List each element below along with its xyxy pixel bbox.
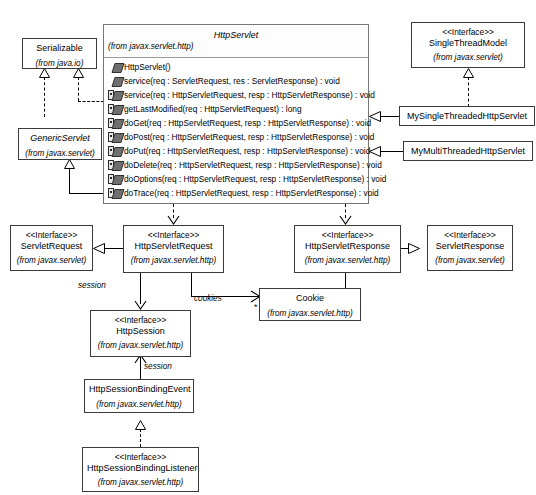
stereotype-http-session-binding-listener: <<Interface>> bbox=[87, 452, 194, 463]
class-box-servlet-response[interactable]: <<Interface>> ServletResponse (from java… bbox=[427, 225, 513, 271]
protected-method-icon bbox=[108, 117, 123, 129]
triangle-http-servlet-multi bbox=[369, 146, 381, 157]
class-box-http-session[interactable]: <<Interface>> HttpSession (from javax.se… bbox=[90, 310, 191, 357]
stereotype-single-thread-model: <<Interface>> bbox=[416, 27, 520, 38]
realization-listener-to-binding-event bbox=[140, 429, 141, 447]
method-row[interactable]: HttpServlet() bbox=[104, 60, 368, 74]
class-name-http-servlet: HttpServlet bbox=[104, 25, 368, 41]
class-package-http-servlet-response: (from javax.servlet.http) bbox=[299, 255, 396, 266]
class-name-my-multi-threaded-http-servlet: MyMultiThreadedHttpServlet bbox=[408, 146, 528, 158]
class-package-http-servlet-request: (from javax.servlet.http) bbox=[128, 255, 219, 266]
multiplicity-cookie-left: * bbox=[254, 303, 258, 312]
realization-http-servlet-to-serializable-horizontal bbox=[78, 101, 104, 102]
class-package-http-session-binding-event: (from javax.servlet.http) bbox=[89, 399, 189, 410]
class-box-http-session-binding-listener[interactable]: <<Interface>> HttpSessionBindingListener… bbox=[82, 447, 199, 492]
class-name-http-servlet-response: HttpServletResponse bbox=[299, 241, 396, 253]
class-box-http-session-binding-event[interactable]: HttpSessionBindingEvent (from javax.serv… bbox=[84, 379, 194, 413]
generalization-my-single-threaded-to-http-servlet bbox=[381, 116, 399, 117]
class-name-http-session-binding-listener: HttpSessionBindingListener bbox=[87, 463, 194, 475]
class-package-cookie: (from javax.servlet.http) bbox=[264, 308, 356, 319]
method-row[interactable]: service(req : HttpServletRequest, resp :… bbox=[104, 88, 368, 102]
public-method-icon bbox=[108, 75, 123, 87]
class-package-servlet-request: (from javax.servlet) bbox=[15, 255, 88, 266]
class-name-servlet-response: ServletResponse bbox=[432, 241, 508, 253]
stereotype-http-servlet-response: <<Interface>> bbox=[299, 230, 396, 241]
method-signature: doPut(req : HttpServletRequest, resp : H… bbox=[124, 144, 370, 158]
arrowhead-response-dependency bbox=[339, 215, 352, 225]
class-name-http-servlet-request: HttpServletRequest bbox=[128, 241, 219, 253]
method-signature: service(req : HttpServletRequest, resp :… bbox=[124, 88, 375, 102]
class-name-single-thread-model: SingleThreadModel bbox=[416, 38, 520, 50]
protected-method-icon bbox=[108, 145, 123, 157]
label-cookies-from-request: cookies bbox=[194, 294, 222, 304]
class-box-single-thread-model[interactable]: <<Interface>> SingleThreadModel (from ja… bbox=[411, 22, 525, 68]
class-name-serializable: Serializable bbox=[27, 43, 92, 55]
method-row[interactable]: doTrace(req : HttpServletRequest, resp :… bbox=[104, 186, 368, 200]
class-name-generic-servlet: GenericServlet bbox=[23, 133, 97, 145]
class-box-http-servlet-request[interactable]: <<Interface>> HttpServletRequest (from j… bbox=[123, 225, 224, 273]
class-box-http-servlet[interactable]: HttpServlet (from javax.servlet.http) Ht… bbox=[103, 24, 369, 204]
method-row[interactable]: doOptions(req : HttpServletRequest, resp… bbox=[104, 172, 368, 186]
method-row[interactable]: doPut(req : HttpServletRequest, resp : H… bbox=[104, 144, 368, 158]
method-row[interactable]: doGet(req : HttpServletRequest, resp : H… bbox=[104, 116, 368, 130]
arrowhead-request-dependency bbox=[167, 215, 180, 225]
association-request-to-cookie-vertical bbox=[191, 273, 192, 296]
method-signature: doDelete(req : HttpServletRequest, resp … bbox=[124, 158, 382, 172]
method-signature: getLastModified(req : HttpServletRequest… bbox=[124, 102, 302, 116]
uml-class-diagram-canvas: session cookies * cookies * session Seri… bbox=[0, 0, 536, 495]
protected-method-icon bbox=[108, 173, 123, 185]
protected-method-icon bbox=[108, 103, 123, 115]
triangle-servlet-response bbox=[408, 243, 420, 254]
class-package-http-session: (from javax.servlet.http) bbox=[95, 340, 186, 351]
http-servlet-header: HttpServlet (from javax.servlet.http) bbox=[104, 25, 368, 58]
triangle-servlet-request bbox=[93, 243, 105, 254]
class-package-single-thread-model: (from javax.servlet) bbox=[416, 52, 520, 63]
method-row[interactable]: getLastModified(req : HttpServletRequest… bbox=[104, 102, 368, 116]
stereotype-http-servlet-request: <<Interface>> bbox=[128, 230, 219, 241]
method-signature: doOptions(req : HttpServletRequest, resp… bbox=[124, 172, 386, 186]
realization-http-servlet-to-serializable-vertical bbox=[78, 77, 79, 101]
stereotype-http-session: <<Interface>> bbox=[95, 315, 186, 326]
class-name-http-session-binding-event: HttpSessionBindingEvent bbox=[89, 384, 189, 396]
triangle-single-thread-model bbox=[463, 68, 474, 78]
class-box-my-multi-threaded-http-servlet[interactable]: MyMultiThreadedHttpServlet bbox=[403, 141, 533, 161]
protected-method-icon bbox=[108, 89, 123, 101]
class-package-generic-servlet: (from javax.servlet) bbox=[23, 148, 97, 159]
realization-my-single-threaded-to-single-thread-model bbox=[468, 77, 469, 107]
generalization-request-to-servlet-request bbox=[105, 248, 123, 249]
method-signature: service(req : ServletRequest, res : Serv… bbox=[124, 74, 340, 88]
protected-method-icon bbox=[108, 159, 123, 171]
method-row[interactable]: doPost(req : HttpServletRequest, resp : … bbox=[104, 130, 368, 144]
class-box-generic-servlet[interactable]: GenericServlet (from javax.servlet) bbox=[18, 128, 102, 160]
class-package-http-servlet: (from javax.servlet.http) bbox=[104, 41, 368, 52]
class-package-servlet-response: (from javax.servlet) bbox=[432, 255, 508, 266]
class-package-serializable: (from java.io) bbox=[27, 58, 92, 69]
class-name-cookie: Cookie bbox=[264, 293, 356, 305]
method-signature: HttpServlet() bbox=[124, 60, 171, 74]
method-row[interactable]: service(req : ServletRequest, res : Serv… bbox=[104, 74, 368, 88]
method-signature: doPost(req : HttpServletRequest, resp : … bbox=[124, 130, 374, 144]
generalization-http-servlet-to-generic-servlet-vertical bbox=[69, 168, 70, 193]
class-name-my-single-threaded-http-servlet: MySingleThreadedHttpServlet bbox=[404, 111, 530, 123]
method-signature: doGet(req : HttpServletRequest, resp : H… bbox=[124, 116, 371, 130]
arrowhead-session-from-request bbox=[134, 300, 147, 310]
class-box-serializable[interactable]: Serializable (from java.io) bbox=[22, 38, 97, 69]
realization-generic-servlet-to-serializable bbox=[44, 77, 45, 117]
class-box-cookie[interactable]: Cookie (from javax.servlet.http) bbox=[259, 288, 361, 321]
protected-method-icon bbox=[108, 187, 123, 199]
class-box-my-single-threaded-http-servlet[interactable]: MySingleThreadedHttpServlet bbox=[399, 106, 535, 126]
class-box-http-servlet-response[interactable]: <<Interface>> HttpServletResponse (from … bbox=[294, 225, 401, 273]
generalization-http-servlet-to-generic-servlet-horizontal bbox=[69, 193, 104, 194]
triangle-binding-event bbox=[135, 420, 146, 430]
protected-method-icon bbox=[108, 131, 123, 143]
method-row[interactable]: doDelete(req : HttpServletRequest, resp … bbox=[104, 158, 368, 172]
generalization-my-multi-threaded-to-http-servlet bbox=[381, 151, 403, 152]
stereotype-servlet-response: <<Interface>> bbox=[432, 230, 508, 241]
http-servlet-method-list: HttpServlet()service(req : ServletReques… bbox=[104, 58, 368, 200]
label-session-from-binding-event: session bbox=[144, 362, 172, 372]
class-name-servlet-request: ServletRequest bbox=[15, 241, 88, 253]
class-box-servlet-request[interactable]: <<Interface>> ServletRequest (from javax… bbox=[10, 225, 93, 271]
class-package-http-session-binding-listener: (from javax.servlet.http) bbox=[87, 477, 194, 488]
public-method-icon bbox=[108, 61, 123, 73]
method-signature: doTrace(req : HttpServletRequest, resp :… bbox=[124, 186, 379, 200]
